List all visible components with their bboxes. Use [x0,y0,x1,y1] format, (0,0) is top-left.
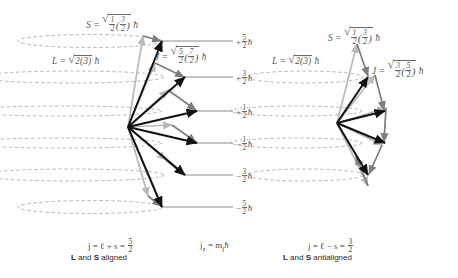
mj-label-minus-5-2: −52ħ [236,200,252,216]
left-L-magnitude-label: L = 2(3) ħ [52,55,99,67]
mj-label-plus-1-2: +12ħ [236,104,252,120]
right-caption-equation: j = ℓ − s = 32 [308,238,354,254]
right-L-magnitude-label: L = 2(3) ħ [272,55,319,67]
vector-diagram-svg [0,0,458,278]
left-caption-equation: j = ℓ + s = 52 [88,238,134,254]
right-caption-text: L and S antialigned [283,253,352,262]
left-caption-text: L and S aligned [71,253,127,262]
mj-label-minus-1-2: −12ħ [236,136,252,152]
left-J-magnitude-label: J = 52(72) ħ [155,46,207,65]
mj-label-plus-3-2: +32ħ [236,70,252,86]
center-caption-equation: jz = mjħ [200,240,229,253]
mj-label-plus-5-2: +52ħ [236,34,252,50]
figure-canvas: S = 12(32) ħ L = 2(3) ħ J = 52(72) ħ +52… [0,0,458,278]
mj-label-minus-3-2: −32ħ [236,168,252,184]
right-J-magnitude-label: J = 32(52) ħ [372,60,424,79]
left-S-magnitude-label: S = 12(32) ħ [86,14,138,33]
right-S-magnitude-label: S = 12(32) ħ [328,27,380,46]
left-level-lines [162,41,233,207]
